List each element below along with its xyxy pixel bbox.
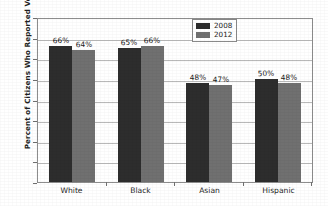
legend-item-2012: 2012 bbox=[196, 31, 232, 39]
bar-value-label: 48% bbox=[189, 73, 206, 82]
bar-asian-2012[interactable]: 47% bbox=[209, 85, 232, 182]
bar-value-label: 65% bbox=[121, 38, 138, 47]
bar-hispanic-2012[interactable]: 48% bbox=[278, 83, 301, 182]
bar-white-2012[interactable]: 64% bbox=[72, 50, 95, 182]
bar-asian-2008[interactable]: 48% bbox=[186, 83, 209, 182]
bar-groups: 66%64%65%66%48%47%50%48% bbox=[38, 19, 312, 182]
y-axis-tick-mark bbox=[33, 183, 37, 184]
bar-pair: 48%47% bbox=[186, 83, 232, 182]
y-axis-tick-mark bbox=[33, 39, 37, 40]
bar-pair: 66%64% bbox=[49, 46, 95, 182]
legend-label-2008: 2008 bbox=[214, 22, 232, 30]
x-axis-label-white: White bbox=[37, 186, 106, 195]
y-axis-tick-mark bbox=[33, 162, 37, 163]
y-axis-tick-mark bbox=[33, 142, 37, 143]
bar-value-label: 50% bbox=[258, 69, 275, 78]
bar-pair: 50%48% bbox=[255, 79, 301, 182]
x-axis-label-hispanic: Hispanic bbox=[244, 186, 313, 195]
chart-legend: 2008 2012 bbox=[192, 19, 237, 42]
legend-swatch-icon-2012 bbox=[196, 32, 210, 38]
bar-black-2012[interactable]: 66% bbox=[141, 46, 164, 182]
bar-value-label: 66% bbox=[52, 36, 69, 45]
y-axis-tick-mark bbox=[33, 101, 37, 102]
y-axis-tick-mark bbox=[33, 121, 37, 122]
legend-label-2012: 2012 bbox=[214, 31, 232, 39]
legend-item-2008: 2008 bbox=[196, 22, 232, 30]
bar-black-2008[interactable]: 65% bbox=[118, 48, 141, 182]
legend-swatch-icon-2008 bbox=[196, 23, 210, 29]
bar-chart: Percent of Citizens Who Reported Voting … bbox=[0, 0, 328, 206]
bar-pair: 65%66% bbox=[118, 46, 164, 182]
bar-value-label: 48% bbox=[281, 73, 298, 82]
bar-value-label: 47% bbox=[212, 75, 229, 84]
bar-group: 50%48% bbox=[244, 19, 313, 182]
y-axis-title: Percent of Citizens Who Reported Voting bbox=[23, 0, 32, 150]
bar-value-label: 64% bbox=[75, 40, 92, 49]
bar-group: 48%47% bbox=[175, 19, 244, 182]
bar-group: 66%64% bbox=[38, 19, 107, 182]
bar-group: 65%66% bbox=[107, 19, 176, 182]
bar-white-2008[interactable]: 66% bbox=[49, 46, 72, 182]
y-axis-tick-mark bbox=[33, 59, 37, 60]
y-axis-tick-mark bbox=[33, 18, 37, 19]
x-axis-label-black: Black bbox=[106, 186, 175, 195]
x-axis-label-asian: Asian bbox=[175, 186, 244, 195]
plot-area: 66%64%65%66%48%47%50%48% bbox=[37, 18, 313, 183]
bar-value-label: 66% bbox=[144, 36, 161, 45]
bar-hispanic-2008[interactable]: 50% bbox=[255, 79, 278, 182]
x-axis-labels: WhiteBlackAsianHispanic bbox=[37, 186, 313, 195]
y-axis-tick-mark bbox=[33, 80, 37, 81]
